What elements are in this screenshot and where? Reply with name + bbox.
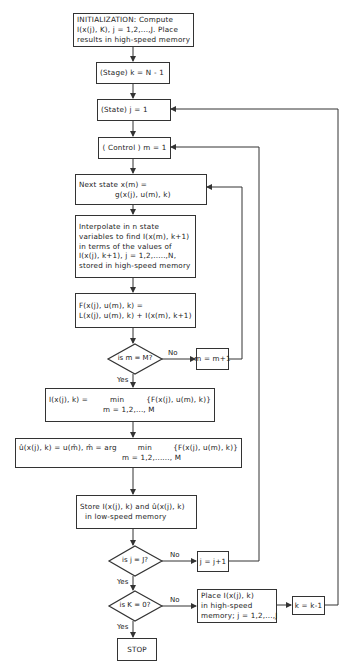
decision-m-no-label: No: [168, 349, 178, 357]
init-box: INITIALIZATION: Compute I(x(j), K), j = …: [73, 13, 194, 47]
stage-text: (Stage) k = N - 1: [100, 68, 166, 78]
loop-m-to-next-state: [207, 187, 242, 359]
decision-k-text: is K = 0?: [112, 601, 158, 609]
I-min-lhs: I(x(j), k) =: [49, 395, 88, 405]
interp-line-5: stored in high-speed memory: [79, 261, 192, 271]
k-decrement-box: k = k-1: [292, 596, 325, 615]
decision-j-no-label: No: [170, 551, 180, 559]
F-line-2: L(x(j), u(m), k) + I(x(m), k+1): [79, 311, 192, 321]
u-hat-op: min: [138, 443, 152, 453]
decision-j-yes-label: Yes: [117, 578, 128, 586]
F-line-1: F(x(j), u(m), k) =: [79, 301, 192, 311]
connector-lines: [0, 0, 350, 672]
init-line-3: results in high-speed memory: [77, 35, 190, 45]
place-line-2: in high-speed: [201, 601, 273, 611]
stop-text: STOP: [127, 645, 147, 655]
interp-line-4: I(x(j), k+1), j = 1,2,.....,N,: [79, 251, 192, 261]
interp-line-1: Interpolate in n state: [79, 222, 192, 232]
I-min-box: I(x(j), k) = min {F(x(j), u(m), k)} m = …: [45, 388, 215, 422]
next-state-line-1: Next state x(m) =: [79, 180, 203, 190]
place-line-1: Place I(x(j), k): [201, 591, 273, 601]
I-min-sub: m = 1,2,..., M: [49, 405, 211, 415]
j-increment-text: j = j+1: [200, 557, 227, 567]
u-hat-rhs: {F(x(j), u(m), k)}: [173, 443, 238, 453]
F-definition-box: F(x(j), u(m), k) = L(x(j), u(m), k) + I(…: [75, 293, 196, 328]
stop-box: STOP: [117, 638, 157, 661]
interp-line-2: variables to find I(x(m), k+1): [79, 232, 192, 242]
j-increment-box: j = j+1: [197, 551, 229, 572]
decision-j-text: is j = J?: [112, 556, 158, 564]
control-text: ( Control ) m = 1: [102, 143, 166, 153]
interpolate-box: Interpolate in n state variables to find…: [75, 215, 196, 278]
stage-box: (Stage) k = N - 1: [96, 62, 170, 84]
u-hat-sub: m = 1,2,......, M: [19, 453, 238, 463]
store-line-2: in low-speed memory: [80, 512, 193, 522]
store-box: Store I(x(j), k) and û(x(j), k) in low-s…: [76, 495, 197, 529]
next-state-line-2: g(x(j), u(m), k): [79, 190, 203, 200]
I-min-op: min: [110, 395, 124, 405]
decision-k-yes-label: Yes: [117, 623, 128, 631]
store-line-1: Store I(x(j), k) and û(x(j), k): [80, 502, 193, 512]
k-decrement-text: k = k-1: [295, 601, 322, 611]
decision-k-no-label: No: [170, 596, 180, 604]
u-hat-lhs: û(x(j), k) = u(m̂), m̂ = arg: [19, 443, 117, 453]
m-increment-box: m = m+1: [196, 348, 229, 370]
init-line-2: I(x(j), K), j = 1,2,...,J. Place: [77, 25, 190, 35]
init-line-1: INITIALIZATION: Compute: [77, 15, 190, 25]
state-box: (State) j = 1: [97, 99, 171, 121]
control-box: ( Control ) m = 1: [98, 137, 171, 159]
next-state-box: Next state x(m) = g(x(j), u(m), k): [75, 174, 207, 205]
u-hat-box: û(x(j), k) = u(m̂), m̂ = arg min {F(x(j)…: [15, 438, 242, 468]
I-min-rhs: {F(x(j), u(m), k)}: [146, 395, 211, 405]
decision-m-text: is m = M?: [112, 354, 158, 362]
place-line-3: memory; j = 1,2,...,J: [201, 611, 273, 621]
state-text: (State) j = 1: [101, 105, 167, 115]
m-increment-text: m = m+1: [194, 354, 231, 364]
interp-line-3: in terms of the values of: [79, 242, 192, 252]
decision-m-yes-label: Yes: [117, 376, 128, 384]
place-box: Place I(x(j), k) in high-speed memory; j…: [197, 589, 277, 623]
